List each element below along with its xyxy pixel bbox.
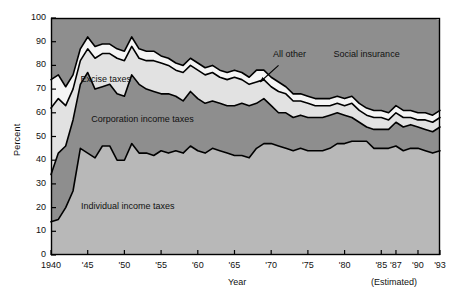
y-tick-label: 100 [20,12,46,22]
band-label-corporation-income-taxes: Corporation income taxes [91,114,194,124]
estimated-note: (Estimated) [371,277,417,287]
chart-figure: Percent 1009080706050403020100 1940'45'5… [0,0,458,302]
x-tick-label: '87 [387,260,405,270]
y-tick-label: 40 [20,154,46,164]
y-tick-label: 50 [20,131,46,141]
y-tick-label: 10 [20,225,46,235]
y-tick-label: 80 [20,59,46,69]
y-tick-label: 60 [20,107,46,117]
y-tick-label: 90 [20,36,46,46]
x-tick-label: 1940 [38,260,64,270]
x-axis-title: Year [228,277,246,287]
x-tick-label: '60 [189,260,207,270]
y-tick-label: 20 [20,202,46,212]
stacked-area-chart [0,0,458,302]
band-label-individual-income-taxes: Individual income taxes [81,201,175,211]
x-tick-label: '75 [299,260,317,270]
y-axis-title: Percent [2,86,12,100]
x-tick-label: '70 [262,260,280,270]
area-band-individual-income-taxes [51,141,440,255]
x-tick-label: '65 [225,260,243,270]
y-tick-label: 30 [20,178,46,188]
y-tick-label: 70 [20,83,46,93]
y-tick-label: 0 [20,249,46,259]
x-tick-label: '90 [409,260,427,270]
band-label-social-insurance: Social insurance [334,49,400,59]
x-tick-label: '55 [152,260,170,270]
band-label-all-other: All other [273,49,306,59]
band-label-excise-taxes: Excise taxes [81,74,132,84]
x-tick-label: '80 [336,260,354,270]
x-tick-label: '50 [115,260,133,270]
x-tick-label: '93 [431,260,449,270]
x-tick-label: '45 [79,260,97,270]
